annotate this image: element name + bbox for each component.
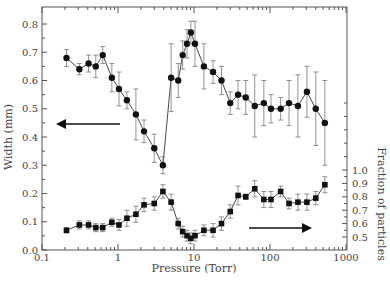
data-point-circle <box>210 69 216 75</box>
data-point-circle <box>286 100 292 106</box>
data-point-circle <box>235 91 241 97</box>
y-axis-right-label: Fraction of particles <box>375 147 388 261</box>
y-tick-label: 0.5 <box>22 103 38 114</box>
data-point-square <box>160 189 166 195</box>
y-tick-label: 0.8 <box>22 19 38 30</box>
data-point-square <box>141 202 147 208</box>
series-line <box>66 32 324 165</box>
data-point-circle <box>133 111 139 117</box>
y-right-tick-label: 1.0 <box>352 165 368 176</box>
data-point-circle <box>227 100 233 106</box>
data-point-square <box>201 228 207 234</box>
data-series <box>63 21 328 244</box>
y-right-tick-label: 0.8 <box>352 191 368 202</box>
data-point-square <box>243 194 249 200</box>
y-right-tick-label: 0.7 <box>352 205 368 216</box>
data-point-square <box>77 222 83 228</box>
y-right-tick-label: 0.9 <box>352 178 368 189</box>
data-point-square <box>100 225 106 231</box>
left-arrow-icon <box>56 119 66 129</box>
data-point-square <box>64 228 70 234</box>
data-point-circle <box>151 145 157 151</box>
data-point-square <box>219 221 225 227</box>
data-point-square <box>227 209 233 215</box>
y-tick-label: 0.7 <box>22 47 38 58</box>
annotation-arrows <box>56 119 312 233</box>
data-point-square <box>268 197 274 203</box>
data-point-square <box>93 225 99 231</box>
data-point-circle <box>243 94 249 100</box>
data-point-circle <box>100 52 106 58</box>
data-point-circle <box>188 29 194 35</box>
x-tick-label: 1 <box>115 252 121 263</box>
data-point-square <box>210 228 216 234</box>
data-point-square <box>133 211 139 217</box>
y-axis-label: Width (mm) <box>2 104 15 170</box>
x-tick-label: 1000 <box>333 252 358 263</box>
data-point-square <box>124 215 130 221</box>
y-tick-label: 0.3 <box>22 160 38 171</box>
data-point-square <box>304 199 310 205</box>
y-tick-label: 0.0 <box>22 245 38 256</box>
data-point-square <box>235 193 241 199</box>
data-point-circle <box>252 103 258 109</box>
data-point-circle <box>295 103 301 109</box>
y-tick-label: 0.2 <box>22 188 38 199</box>
data-point-circle <box>93 63 99 69</box>
x-tick-label: 100 <box>260 252 279 263</box>
data-point-circle <box>76 66 82 72</box>
data-point-square <box>295 199 301 205</box>
data-point-circle <box>116 86 122 92</box>
y-right-tick-label: 0.6 <box>352 218 368 229</box>
data-point-square <box>313 195 319 201</box>
data-point-square <box>116 222 122 228</box>
data-point-circle <box>218 77 224 83</box>
data-point-circle <box>85 60 91 66</box>
data-point-square <box>175 221 181 227</box>
data-point-square <box>151 201 157 207</box>
data-point-circle <box>322 120 328 126</box>
chart-plot: 0.111010010000.00.10.20.30.40.50.60.70.8… <box>0 0 390 291</box>
y-right-tick-label: 0.5 <box>352 232 368 243</box>
data-point-square <box>109 219 115 225</box>
data-point-circle <box>160 162 166 168</box>
data-point-circle <box>109 74 115 80</box>
y-tick-label: 0.1 <box>22 216 38 227</box>
data-point-circle <box>313 106 319 112</box>
data-point-circle <box>141 128 147 134</box>
data-point-square <box>322 182 328 188</box>
y-tick-label: 0.4 <box>22 132 38 143</box>
data-point-circle <box>63 55 69 61</box>
data-point-square <box>168 199 174 205</box>
data-point-square <box>192 233 198 239</box>
data-point-square <box>86 222 92 228</box>
data-point-circle <box>261 100 267 106</box>
right-arrow-icon <box>302 223 312 233</box>
chart-figure: 0.111010010000.00.10.20.30.40.50.60.70.8… <box>0 0 390 291</box>
data-point-square <box>252 186 258 192</box>
data-point-circle <box>277 106 283 112</box>
data-point-circle <box>168 74 174 80</box>
data-point-square <box>261 197 267 203</box>
data-point-circle <box>268 106 274 112</box>
data-point-square <box>278 189 284 195</box>
data-point-square <box>286 201 292 207</box>
data-point-circle <box>304 89 310 95</box>
data-point-circle <box>192 41 198 47</box>
x-axis-label: Pressure (Torr) <box>151 262 236 275</box>
data-point-circle <box>179 52 185 58</box>
data-point-circle <box>201 63 207 69</box>
data-point-circle <box>124 97 130 103</box>
data-point-circle <box>175 77 181 83</box>
y-tick-label: 0.6 <box>22 75 38 86</box>
